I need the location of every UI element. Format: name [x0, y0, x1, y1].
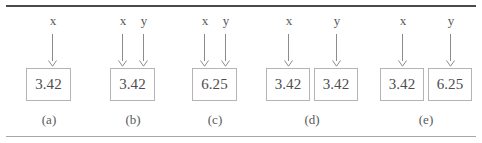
- arrow-y: [139, 34, 148, 67]
- top-rule: [6, 5, 476, 7]
- value-text: 3.42: [267, 69, 309, 100]
- value-text: 6.25: [429, 69, 471, 100]
- value-text: 3.42: [111, 69, 154, 100]
- panel-caption-c: (c): [195, 112, 235, 128]
- variable-label-y: y: [328, 14, 346, 28]
- value-box-x: 3.42: [380, 68, 424, 101]
- value-text: 3.42: [381, 69, 423, 100]
- value-box-x: 3.42: [266, 68, 310, 101]
- value-box-x: 3.42: [26, 68, 71, 101]
- panel-c: x y 6.25 (c): [182, 14, 262, 130]
- value-text: 3.42: [315, 69, 357, 100]
- arrow-y: [332, 34, 341, 67]
- arrow-x: [398, 34, 407, 67]
- arrow-y: [221, 34, 230, 67]
- arrow-y: [446, 34, 455, 67]
- variable-label-y: y: [442, 14, 460, 28]
- variable-label-y: y: [135, 14, 153, 28]
- variable-label-x: x: [114, 14, 132, 28]
- value-box-y: 3.42: [314, 68, 358, 101]
- panel-e: x y 3.42 6.25 (e): [378, 14, 478, 130]
- arrow-x: [200, 34, 209, 67]
- panel-a: x 3.42 (a): [14, 14, 94, 130]
- panel-caption-d: (d): [292, 112, 332, 128]
- variable-label-x: x: [394, 14, 412, 28]
- value-text: 3.42: [27, 69, 70, 100]
- variable-label-y: y: [217, 14, 235, 28]
- variable-label-x: x: [196, 14, 214, 28]
- value-box-shared: 6.25: [192, 68, 237, 101]
- figure-container: x 3.42 (a) x y: [0, 0, 482, 143]
- panel-caption-b: (b): [113, 112, 153, 128]
- bottom-rule: [6, 136, 476, 137]
- value-text: 6.25: [193, 69, 236, 100]
- variable-label-x: x: [280, 14, 298, 28]
- value-box-y: 6.25: [428, 68, 472, 101]
- panel-caption-e: (e): [406, 112, 446, 128]
- arrow-x: [118, 34, 127, 67]
- panel-caption-a: (a): [29, 112, 69, 128]
- value-box-shared: 3.42: [110, 68, 155, 101]
- panel-b: x y 3.42 (b): [100, 14, 180, 130]
- panel-d: x y 3.42 3.42 (d): [264, 14, 364, 130]
- arrow-x: [284, 34, 293, 67]
- arrow-x: [48, 34, 57, 67]
- variable-label-x: x: [44, 14, 62, 28]
